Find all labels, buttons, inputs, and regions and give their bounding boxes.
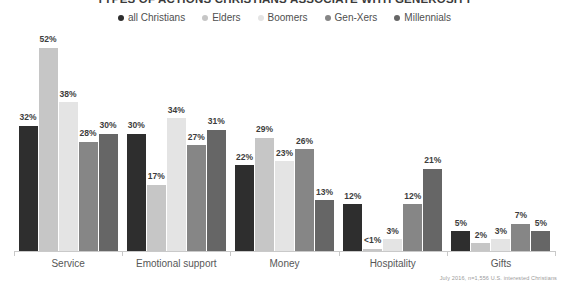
bar-column[interactable]: 12%	[343, 36, 362, 251]
legend-item[interactable]: Millennials	[394, 13, 451, 23]
bar-column[interactable]: 28%	[79, 36, 98, 251]
category-label: Money	[230, 258, 338, 269]
generosity-bar-chart: TYPES OF ACTIONS CHRISTIANS ASSOCIATE WI…	[0, 0, 569, 285]
bar-value-label: 2%	[475, 231, 487, 240]
bar-groups: 32%52%38%28%30%30%17%34%27%31%22%29%23%2…	[14, 36, 555, 251]
bar[interactable]	[275, 161, 294, 251]
bar-value-label: 12%	[344, 192, 361, 201]
legend-swatch-icon	[258, 15, 264, 21]
bar-column[interactable]: 34%	[167, 36, 186, 251]
bar[interactable]	[471, 243, 490, 251]
bar-column[interactable]: 21%	[423, 36, 442, 251]
chart-title: TYPES OF ACTIONS CHRISTIANS ASSOCIATE WI…	[0, 0, 569, 5]
bar-value-label: 3%	[387, 227, 399, 236]
bar[interactable]	[491, 239, 510, 251]
bar-column[interactable]: 30%	[99, 36, 118, 251]
chart-legend: all ChristiansEldersBoomersGen-XersMille…	[0, 13, 569, 23]
bar-column[interactable]: 23%	[275, 36, 294, 251]
bar-value-label: <1%	[364, 236, 381, 245]
bar[interactable]	[147, 185, 166, 251]
bar-value-label: 22%	[236, 153, 253, 162]
bar[interactable]	[19, 126, 38, 251]
bar-value-label: 28%	[80, 129, 97, 138]
bar-value-label: 26%	[296, 137, 313, 146]
bar[interactable]	[255, 138, 274, 251]
bar-group: 30%17%34%27%31%	[122, 36, 230, 251]
bar-value-label: 30%	[100, 121, 117, 130]
bar-column[interactable]: 3%	[491, 36, 510, 251]
bar[interactable]	[511, 224, 530, 251]
bar-value-label: 12%	[404, 192, 421, 201]
bar-group: 32%52%38%28%30%	[14, 36, 122, 251]
bar[interactable]	[207, 130, 226, 251]
bar-column[interactable]: 3%	[383, 36, 402, 251]
bar[interactable]	[451, 231, 470, 251]
bar-group: 12%<1%3%12%21%	[339, 36, 447, 251]
bar-value-label: 21%	[424, 156, 441, 165]
bar-column[interactable]: 7%	[511, 36, 530, 251]
bar-column[interactable]: 27%	[187, 36, 206, 251]
bar-column[interactable]: <1%	[363, 36, 382, 251]
legend-item[interactable]: Boomers	[258, 13, 308, 23]
bar-column[interactable]: 38%	[59, 36, 78, 251]
bar-column[interactable]: 29%	[255, 36, 274, 251]
bar[interactable]	[403, 204, 422, 251]
bar-column[interactable]: 17%	[147, 36, 166, 251]
bar-column[interactable]: 30%	[127, 36, 146, 251]
bar-column[interactable]: 2%	[471, 36, 490, 251]
axis-tick	[14, 251, 15, 256]
bar-value-label: 23%	[276, 149, 293, 158]
bar-column[interactable]: 26%	[295, 36, 314, 251]
bar[interactable]	[79, 142, 98, 251]
bar[interactable]	[315, 200, 334, 251]
bar[interactable]	[39, 48, 58, 251]
axis-tick	[339, 251, 340, 256]
bar-column[interactable]: 5%	[531, 36, 550, 251]
bar[interactable]	[59, 102, 78, 251]
bar[interactable]	[127, 134, 146, 251]
plot-area: 32%52%38%28%30%30%17%34%27%31%22%29%23%2…	[14, 36, 555, 251]
bar-column[interactable]: 52%	[39, 36, 58, 251]
bar[interactable]	[187, 145, 206, 251]
bar[interactable]	[99, 134, 118, 251]
bar[interactable]	[167, 118, 186, 251]
legend-item[interactable]: Gen-Xers	[325, 13, 378, 23]
legend-item[interactable]: Elders	[202, 13, 240, 23]
bar-value-label: 32%	[20, 113, 37, 122]
chart-footnote: July 2016, n=1,556 U.S. interested Chris…	[440, 275, 557, 281]
category-label: Gifts	[447, 258, 555, 269]
category-label: Hospitality	[339, 258, 447, 269]
bar-value-label: 7%	[515, 211, 527, 220]
bar-value-label: 31%	[208, 117, 225, 126]
axis-tick	[447, 251, 448, 256]
legend-item[interactable]: all Christians	[118, 13, 185, 23]
bar-column[interactable]: 5%	[451, 36, 470, 251]
bar-value-label: 3%	[495, 227, 507, 236]
bar[interactable]	[343, 204, 362, 251]
legend-swatch-icon	[394, 15, 400, 21]
bar[interactable]	[295, 149, 314, 251]
bar-column[interactable]: 22%	[235, 36, 254, 251]
bar-value-label: 29%	[256, 125, 273, 134]
x-axis-line	[14, 251, 555, 252]
legend-swatch-icon	[325, 15, 331, 21]
bar-group: 22%29%23%26%13%	[230, 36, 338, 251]
legend-label: all Christians	[128, 13, 185, 23]
bar-value-label: 34%	[168, 106, 185, 115]
axis-tick	[555, 251, 556, 256]
legend-label: Gen-Xers	[335, 13, 378, 23]
bar-column[interactable]: 32%	[19, 36, 38, 251]
category-label: Emotional support	[122, 258, 230, 269]
bar[interactable]	[235, 165, 254, 251]
bar-value-label: 30%	[128, 121, 145, 130]
category-labels: ServiceEmotional supportMoneyHospitality…	[14, 258, 555, 269]
legend-label: Boomers	[268, 13, 308, 23]
bar-column[interactable]: 13%	[315, 36, 334, 251]
bar[interactable]	[531, 231, 550, 251]
bar-column[interactable]: 12%	[403, 36, 422, 251]
bar-value-label: 27%	[188, 133, 205, 142]
bar[interactable]	[423, 169, 442, 251]
bar[interactable]	[383, 239, 402, 251]
bar-value-label: 5%	[455, 219, 467, 228]
bar-column[interactable]: 31%	[207, 36, 226, 251]
